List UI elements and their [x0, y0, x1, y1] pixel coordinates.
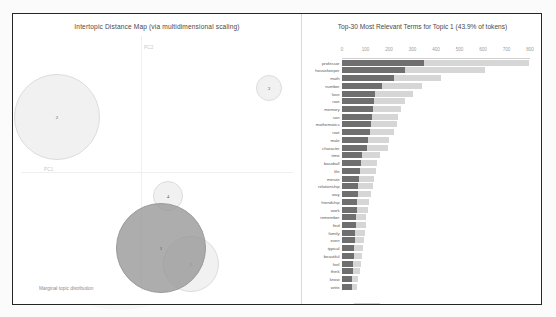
intertopic-distance-map-panel: Intertopic Distance Map (via multidimens… [13, 14, 301, 304]
term-bar-row[interactable]: time [342, 152, 530, 159]
topic-frequency-bar [342, 214, 356, 220]
topic-frequency-bar [342, 268, 353, 274]
topic-frequency-bar [342, 67, 405, 73]
term-bar-row[interactable]: male [342, 136, 530, 143]
term-bar-row[interactable]: root [342, 98, 530, 105]
top-terms-title: Top-30 Most Relevant Terms for Topic 1 (… [302, 23, 542, 30]
term-label[interactable]: beautiful [324, 253, 340, 258]
topic-frequency-bar [342, 276, 352, 282]
topic-frequency-bar [342, 75, 394, 81]
term-bar-row[interactable]: know [342, 276, 530, 283]
topic-circle-label: 1 [160, 246, 163, 251]
term-bar-row[interactable]: mathematics [342, 121, 530, 128]
intertopic-scatter-plot[interactable]: PC2 PC1 25431 [13, 14, 301, 305]
topic-frequency-bar [342, 91, 375, 97]
term-bar-row[interactable]: son [342, 113, 530, 120]
topic-frequency-bar [342, 230, 355, 236]
term-label[interactable]: mathematics [316, 122, 340, 127]
term-bar-row[interactable]: housekeeper [342, 67, 530, 74]
x-axis-tick-100: 100 [362, 47, 370, 52]
term-bar-row[interactable]: relationship [342, 183, 530, 190]
term-label[interactable]: root [332, 99, 339, 104]
topic-frequency-bar [342, 261, 353, 267]
term-bar-row[interactable]: find [342, 221, 530, 228]
term-bar-row[interactable]: feel [342, 260, 530, 267]
term-label[interactable]: housekeeper [315, 68, 339, 73]
term-label[interactable]: think [331, 269, 340, 274]
term-bar-row[interactable]: beautiful [342, 252, 530, 259]
term-label[interactable]: professor [322, 60, 339, 65]
term-bar-row[interactable]: baseball [342, 160, 530, 167]
term-bar-row[interactable]: number [342, 82, 530, 89]
term-label[interactable]: memory [324, 106, 339, 111]
term-label[interactable]: son [333, 114, 340, 119]
term-bar-row[interactable]: way [342, 190, 530, 197]
term-bar-chart: 0100200300400500600700800professorhousek… [342, 59, 530, 291]
topic-frequency-bar [342, 83, 382, 89]
topic-circle-label: 2 [56, 115, 59, 120]
term-label[interactable]: time [332, 153, 340, 158]
topic-frequency-bar [342, 207, 357, 213]
x-axis-tick-400: 400 [432, 47, 440, 52]
term-bar-row[interactable]: work [342, 206, 530, 213]
term-bar-row[interactable]: minute [342, 175, 530, 182]
x-axis-tick-300: 300 [409, 47, 417, 52]
term-label[interactable]: work [331, 207, 340, 212]
topic-circle-label: 3 [268, 86, 271, 91]
term-bar-row[interactable]: math [342, 74, 530, 81]
term-label[interactable]: know [330, 277, 340, 282]
topic-frequency-bar [342, 60, 424, 66]
term-bar-row[interactable]: memory [342, 105, 530, 112]
topic-frequency-bar [342, 245, 354, 251]
pc1-axis-line [21, 172, 293, 173]
term-bar-row[interactable]: family [342, 229, 530, 236]
term-label[interactable]: friendship [321, 199, 339, 204]
legend-label-overall: Overall term frequency [384, 303, 428, 305]
topic-frequency-bar [342, 106, 373, 112]
term-label[interactable]: love [332, 91, 340, 96]
term-label[interactable]: minute [327, 176, 340, 181]
x-axis-tick-0: 0 [341, 47, 344, 52]
topic-circle-2[interactable]: 2 [14, 74, 100, 160]
topic-circle-3[interactable]: 3 [256, 75, 282, 101]
topic-frequency-bar [342, 284, 352, 290]
term-label[interactable]: math [330, 76, 339, 81]
term-label[interactable]: way [332, 192, 340, 197]
term-label[interactable]: find [333, 222, 340, 227]
x-axis-tick-600: 600 [479, 47, 487, 52]
term-label[interactable]: baseball [324, 161, 340, 166]
topic-frequency-bar [342, 199, 357, 205]
term-bar-row[interactable]: root [342, 129, 530, 136]
term-bar-row[interactable]: remember [342, 214, 530, 221]
x-axis-tick-500: 500 [456, 47, 464, 52]
term-label[interactable]: write [331, 284, 340, 289]
term-label[interactable]: relationship [318, 184, 339, 189]
term-label[interactable]: number [325, 83, 339, 88]
term-bar-row[interactable]: think [342, 268, 530, 275]
term-label[interactable]: character [322, 145, 339, 150]
topic-frequency-bar [342, 168, 360, 174]
term-bar-row[interactable]: typical [342, 245, 530, 252]
topic-frequency-bar [342, 114, 372, 120]
term-label[interactable]: typical [328, 246, 340, 251]
term-bar-row[interactable]: even [342, 237, 530, 244]
term-bar-row[interactable]: character [342, 144, 530, 151]
topic-frequency-bar [342, 183, 358, 189]
topic-frequency-bar [342, 237, 355, 243]
term-label[interactable]: male [330, 137, 339, 142]
term-label[interactable]: life [334, 168, 339, 173]
term-bar-row[interactable]: love [342, 90, 530, 97]
term-label[interactable]: remember [320, 215, 339, 220]
term-bar-row[interactable]: write [342, 283, 530, 290]
topic-frequency-bar [342, 160, 361, 166]
topic-frequency-bar [342, 176, 359, 182]
term-label[interactable]: feel [333, 261, 340, 266]
term-bar-row[interactable]: professor [342, 59, 530, 66]
term-bar-row[interactable]: friendship [342, 198, 530, 205]
term-label[interactable]: root [332, 130, 339, 135]
term-bar-row[interactable]: life [342, 167, 530, 174]
term-label[interactable]: family [329, 230, 340, 235]
topic-frequency-bar [342, 222, 356, 228]
topic-circle-1[interactable]: 1 [116, 203, 206, 293]
term-label[interactable]: even [330, 238, 339, 243]
